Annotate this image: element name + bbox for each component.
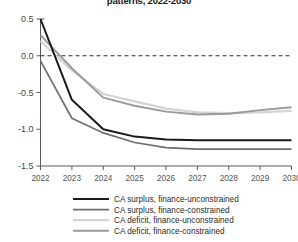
x-tick-label: 2024 — [94, 174, 113, 183]
y-tick-label: 0.0 — [21, 51, 34, 61]
legend-label-2: CA deficit, finance-unconstrained — [114, 216, 234, 225]
x-tick-label: 2022 — [31, 174, 50, 183]
y-tick-label: -1.5 — [18, 161, 34, 171]
series-line-3 — [41, 35, 292, 114]
x-tick-label: 2028 — [220, 174, 239, 183]
x-tick-label: 2027 — [188, 174, 207, 183]
x-tick-label: 2029 — [251, 174, 270, 183]
legend-label-0: CA surplus, finance-unconstrained — [114, 195, 239, 204]
y-tick-label: -1.0 — [18, 124, 34, 134]
chart-svg: 0.50.0-0.5-1.0-1.52022202320242025202620… — [0, 0, 298, 242]
legend-label-3: CA deficit, finance-constrained — [114, 227, 225, 236]
x-tick-label: 2025 — [126, 174, 145, 183]
legend-label-1: CA surplus, finance-constrained — [114, 206, 230, 215]
chart-container: patterns, 2022-2030 0.50.0-0.5-1.0-1.520… — [0, 0, 298, 242]
y-tick-label: 0.5 — [21, 14, 34, 24]
x-tick-label: 2023 — [63, 174, 82, 183]
series-line-2 — [41, 41, 292, 113]
x-tick-label: 2030 — [282, 174, 298, 183]
x-tick-label: 2026 — [157, 174, 176, 183]
y-tick-label: -0.5 — [18, 88, 34, 98]
